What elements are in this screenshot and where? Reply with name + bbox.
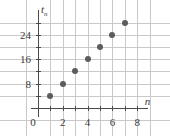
x-axis [31,108,149,109]
y-axis-tick-label: 8 [2,78,31,89]
y-axis-tick-label: 16 [2,54,31,65]
data-point [109,32,115,38]
gridline-vertical [150,0,151,136]
y-axis-tick [36,59,41,60]
data-point [47,93,53,99]
x-axis-tick-label: 6 [110,117,116,128]
gridline-horizontal [0,23,170,24]
x-axis-tick [50,106,51,111]
gridline-vertical [100,0,101,136]
x-axis-tick [88,106,89,111]
x-axis-tick [75,106,76,111]
data-point [85,56,91,62]
y-axis-label-subscript: n [44,10,48,18]
x-axis-tick [112,106,113,111]
data-point [97,44,103,50]
x-axis-tick [125,106,126,111]
y-axis-tick [36,71,41,72]
y-axis-tick [36,35,41,36]
x-axis-tick [100,106,101,111]
y-axis-tick [36,84,41,85]
gridline-horizontal [0,47,170,48]
y-axis-tick-label: 24 [2,29,31,40]
data-point [122,20,128,26]
x-axis-tick-label: 2 [60,117,66,128]
y-axis-tick [36,96,41,97]
data-point [60,81,66,87]
y-axis-tick [36,47,41,48]
x-axis-tick [137,106,138,111]
data-point [72,68,78,74]
x-axis-tick-label: 0 [30,117,36,128]
gridline-vertical [26,0,27,136]
y-axis [38,10,39,117]
x-axis-label: n [145,96,151,107]
x-axis-tick-label: 8 [134,117,140,128]
scatter-plot-figure: 8162402468tnn [0,0,170,136]
x-axis-tick [63,106,64,111]
x-axis-tick-label: 4 [85,117,91,128]
gridline-horizontal [0,71,170,72]
gridline-vertical [50,0,51,136]
y-axis-tick [36,23,41,24]
y-axis-label: tn [41,4,48,20]
